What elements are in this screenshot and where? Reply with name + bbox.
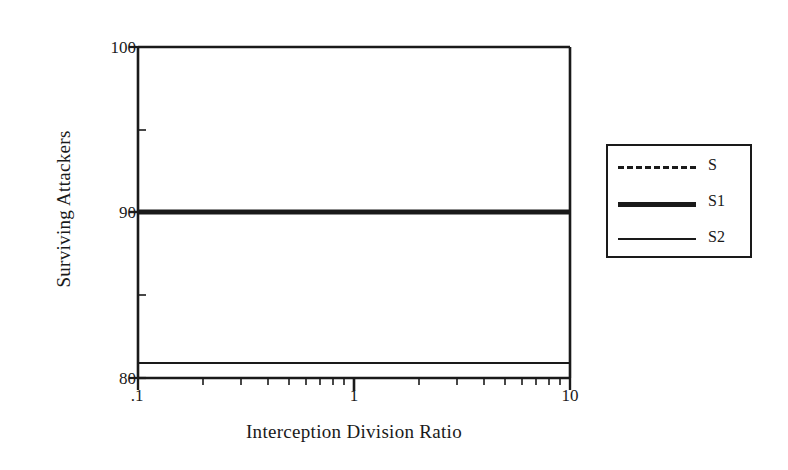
chart-legend: S S1 S2 xyxy=(606,144,752,258)
legend-label-S: S xyxy=(708,156,717,174)
legend-swatch-S2 xyxy=(618,238,696,240)
data-series-group xyxy=(138,212,570,363)
legend-label-S1: S1 xyxy=(708,192,725,210)
legend-swatch-S xyxy=(618,166,696,169)
x-axis-ticks xyxy=(138,378,570,391)
legend-item-S2: S2 xyxy=(608,224,750,254)
legend-swatch-S1 xyxy=(618,202,696,207)
legend-item-S1: S1 xyxy=(608,188,750,218)
chart-figure: Surviving Attackers Interception Divisio… xyxy=(0,0,788,470)
legend-item-S: S xyxy=(608,152,750,182)
legend-label-S2: S2 xyxy=(708,228,725,246)
